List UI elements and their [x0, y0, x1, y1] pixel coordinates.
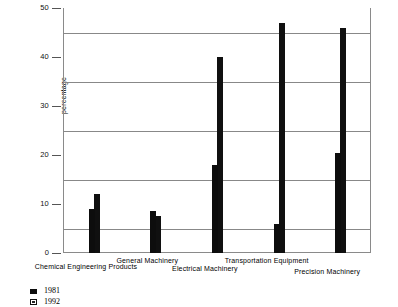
legend-swatch-icon-1992 [30, 299, 37, 305]
x-axis-label: General Machinery [116, 256, 178, 265]
bar-1981 [212, 165, 218, 253]
legend-label-1992: 1992 [44, 297, 60, 307]
y-axis-tick-label: 0 [45, 248, 49, 257]
legend-item-1981: 1981 [30, 286, 60, 296]
bar-1981 [150, 211, 156, 253]
plot-area: 01020304050 [63, 8, 371, 253]
y-axis-tick-label: 10 [40, 199, 49, 208]
chart-page: percentage 01020304050 Chemical Engineer… [0, 0, 398, 307]
y-axis-tick-label: 30 [40, 101, 49, 110]
y-axis-tick-mark [52, 253, 61, 254]
y-axis-tick-label: 50 [40, 3, 49, 12]
y-axis-tick-mark [52, 155, 61, 156]
y-axis-tick-label: 20 [40, 150, 49, 159]
bar-1981 [335, 153, 341, 253]
y-axis-tick-label: 40 [40, 52, 49, 61]
y-axis-tick-mark [52, 204, 61, 205]
x-axis-label: Precision Machinery [294, 267, 360, 276]
x-axis-label: Transportation Equipment [225, 256, 309, 265]
legend-item-1992: 1992 [30, 297, 60, 307]
y-axis-tick-mark [52, 57, 61, 58]
x-axis-category-labels: Chemical Engineering ProductsGeneral Mac… [0, 262, 398, 282]
x-axis-label: Electrical Machinery [172, 264, 238, 273]
bar-1992 [279, 23, 285, 253]
y-axis-tick-mark [52, 106, 61, 107]
bar-1981 [89, 209, 95, 253]
bar-1981 [274, 224, 280, 253]
gridline [63, 33, 371, 34]
chart-legend: 1981 1992 [30, 286, 60, 307]
legend-swatch-icon-1981 [30, 289, 37, 294]
y-axis-tick-mark [52, 8, 61, 9]
legend-label-1981: 1981 [44, 286, 60, 296]
